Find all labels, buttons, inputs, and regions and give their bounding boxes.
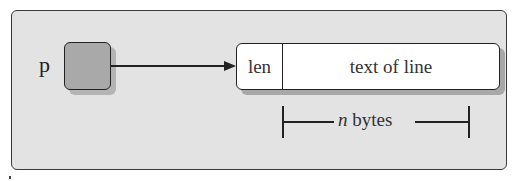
arrowhead-icon — [224, 61, 236, 71]
size-unit: bytes — [348, 109, 393, 130]
line-record: len text of line — [236, 43, 500, 90]
pointer-box — [64, 42, 111, 90]
bracket-right-tick — [468, 106, 470, 138]
stray-mark — [9, 176, 11, 179]
len-field: len — [237, 44, 283, 89]
size-label: n bytes — [338, 109, 392, 131]
text-field: text of line — [283, 44, 499, 89]
bracket-left-line — [282, 121, 334, 123]
diagram-panel — [11, 10, 507, 170]
pointer-label: p — [39, 52, 50, 78]
pointer-arrow-line — [111, 65, 234, 67]
size-variable: n — [338, 109, 348, 130]
bracket-right-line — [415, 121, 469, 123]
